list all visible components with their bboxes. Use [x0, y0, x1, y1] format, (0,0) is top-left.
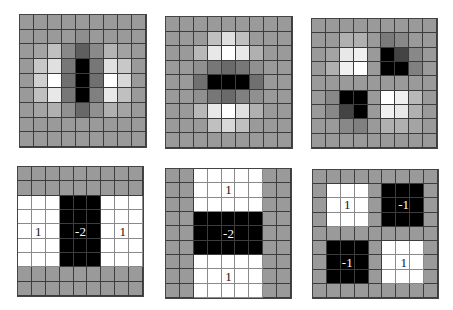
filter-cell: [46, 181, 60, 195]
filter-cell: [166, 119, 180, 134]
filter-cell: [180, 241, 194, 255]
filter-cell: [369, 184, 383, 198]
filter-cell: [381, 62, 395, 76]
filter-cell: [20, 44, 34, 59]
filter-cell: [60, 181, 74, 195]
filter-cell: [369, 213, 383, 227]
filter-cell: [32, 181, 46, 195]
filter-cell: [236, 61, 250, 76]
filter-cell: [166, 255, 180, 269]
filter-cell: [104, 132, 118, 147]
filter-cell: [166, 212, 180, 226]
filter-cell: [87, 239, 101, 253]
filter-cell: [313, 198, 327, 212]
filter-cell: [76, 132, 90, 147]
filter-cell: [326, 19, 340, 33]
filter-cell: [180, 255, 194, 269]
filter-cell: [115, 181, 129, 195]
filter-cell: [32, 239, 46, 253]
filter-cell: [312, 105, 326, 119]
filter-cell: [90, 15, 104, 30]
filter-cell: [20, 132, 34, 147]
filter-cell: [222, 212, 236, 226]
filter-cell: [18, 239, 32, 253]
filter-cell: [235, 241, 249, 255]
filter-cell: [354, 105, 368, 119]
filter-cell: [60, 282, 74, 296]
filter-cell: [423, 48, 437, 62]
filter-cell: [104, 74, 118, 89]
filter-cell: [382, 241, 396, 255]
filter-cell: [312, 48, 326, 62]
filter-cell: [355, 284, 369, 298]
filter-cell: [263, 255, 277, 269]
filter-cell: [382, 255, 396, 269]
filter-cell: [34, 74, 48, 89]
filter-cell: [340, 134, 354, 148]
filter-cell: [410, 255, 424, 269]
horizontal-edge-filter: [165, 16, 293, 149]
filter-cell: [118, 88, 132, 103]
filter-cell: [409, 33, 423, 47]
filter-cell: [48, 88, 62, 103]
filter-cell: [355, 213, 369, 227]
filter-cell: [277, 241, 291, 255]
filter-cell: [424, 241, 438, 255]
filter-cell: [101, 253, 115, 267]
filter-cell: [194, 183, 208, 197]
filter-cell: [313, 241, 327, 255]
filter-cell: [101, 267, 115, 281]
filter-cell: [74, 210, 88, 224]
filter-cell: [263, 183, 277, 197]
filter-cell: [277, 169, 291, 183]
filter-cell: [312, 134, 326, 148]
filter-cell: [277, 226, 291, 240]
filter-cell: [18, 181, 32, 195]
coefficient-label: 1: [116, 224, 130, 239]
filter-cell: [90, 30, 104, 45]
filter-cell: [101, 282, 115, 296]
filter-cell: [115, 210, 129, 224]
filter-cell: [60, 239, 74, 253]
filter-cell: [250, 61, 264, 76]
filter-cell: [381, 33, 395, 47]
filter-cell: [104, 44, 118, 59]
filter-cell: [395, 134, 409, 148]
filter-cell: [249, 198, 263, 212]
filter-cell: [208, 284, 222, 298]
filter-cell: [340, 119, 354, 133]
filter-cell: [46, 196, 60, 210]
filter-cell: [424, 184, 438, 198]
filter-cell: [235, 169, 249, 183]
filter-cell: [208, 75, 222, 90]
filter-cell: [76, 30, 90, 45]
filter-cell: [34, 103, 48, 118]
filter-cell: [62, 30, 76, 45]
filter-cell: [129, 239, 143, 253]
filter-cell: [222, 17, 236, 32]
filter-cell: [409, 119, 423, 133]
filter-cell: [326, 62, 340, 76]
filter-cell: [34, 44, 48, 59]
filter-cell: [277, 284, 291, 298]
filter-cell: [74, 181, 88, 195]
filter-cell: [264, 46, 278, 61]
filter-cell: [90, 44, 104, 59]
filter-cell: [194, 90, 208, 105]
filter-cell: [20, 74, 34, 89]
filter-cell: [208, 169, 222, 183]
filter-cell: [250, 133, 264, 148]
filter-cell: [249, 226, 263, 240]
filter-cell: [208, 198, 222, 212]
filter-cell: [381, 91, 395, 105]
filter-cell: [249, 241, 263, 255]
filter-cell: [180, 32, 194, 47]
filter-cell: [208, 32, 222, 47]
filter-cell: [382, 227, 396, 241]
filter-cell: [87, 253, 101, 267]
filter-cell: [410, 213, 424, 227]
filter-cell: [194, 255, 208, 269]
filter-cell: [382, 213, 396, 227]
filter-cell: [236, 133, 250, 148]
filter-cell: [222, 32, 236, 47]
